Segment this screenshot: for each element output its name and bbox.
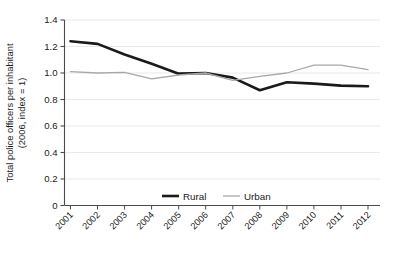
y-tick-label: 1.0 (44, 67, 57, 78)
y-tick-label: 0.8 (44, 94, 57, 105)
y-tick-label: 1.2 (44, 41, 57, 52)
y-tick-label: 0.6 (44, 120, 57, 131)
legend-label-rural: Rural (183, 191, 206, 202)
y-tick-label: 0 (52, 200, 57, 211)
y-axis-title-line1: Total police officers per inhabitant (4, 43, 15, 182)
line-chart: 00.20.40.60.81.01.21.4 20012002200320042… (0, 0, 397, 256)
y-tick-label: 1.4 (44, 14, 58, 25)
y-tick-label: 0.2 (44, 173, 57, 184)
y-tick-label: 0.4 (44, 147, 58, 158)
legend-label-urban: Urban (244, 191, 271, 202)
chart-container: 00.20.40.60.81.01.21.4 20012002200320042… (0, 0, 397, 256)
y-axis-title-line2: (2006, index = 1) (16, 78, 27, 149)
